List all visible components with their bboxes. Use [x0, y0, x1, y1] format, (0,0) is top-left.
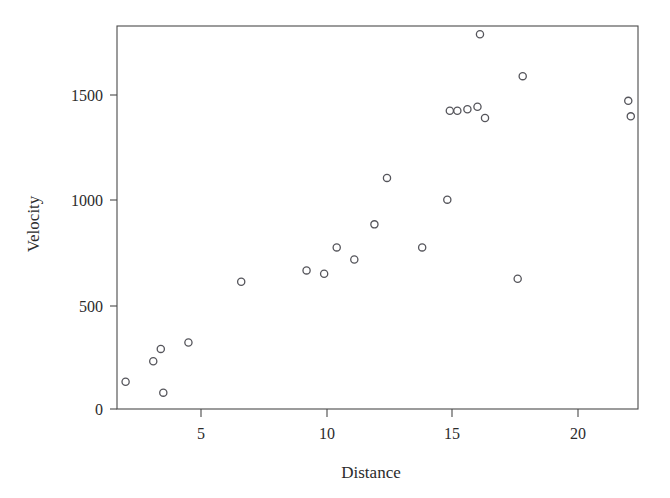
data-point: [446, 107, 453, 114]
data-point: [321, 270, 328, 277]
scatter-plot-figure: 1500 1000 500 0 5 10 15 20 Distance Velo…: [0, 0, 670, 498]
x-axis-tick-labels: 5 10 15 20: [197, 425, 586, 442]
data-point: [383, 174, 390, 181]
data-point: [454, 107, 461, 114]
data-point: [303, 267, 310, 274]
data-point: [625, 97, 632, 104]
data-point: [185, 339, 192, 346]
y-axis-title: Velocity: [24, 195, 43, 252]
data-point: [238, 278, 245, 285]
data-point: [474, 103, 481, 110]
y-tick-label-1500: 1500: [71, 87, 103, 104]
data-point: [160, 389, 167, 396]
data-points-layer: [122, 31, 634, 397]
x-axis-title: Distance: [341, 463, 400, 482]
x-tick-label-5: 5: [197, 425, 205, 442]
data-point: [514, 275, 521, 282]
x-axis-ticks: [201, 409, 578, 417]
data-point: [333, 244, 340, 251]
y-tick-label-1000: 1000: [71, 192, 103, 209]
y-tick-label-500: 500: [79, 298, 103, 315]
data-point: [371, 221, 378, 228]
data-point: [519, 73, 526, 80]
data-point: [122, 378, 129, 385]
y-axis-ticks: [110, 95, 117, 409]
data-point: [157, 345, 164, 352]
data-point: [419, 244, 426, 251]
y-axis-tick-labels: 1500 1000 500 0: [71, 87, 103, 418]
x-tick-label-20: 20: [570, 425, 586, 442]
x-tick-label-15: 15: [444, 425, 460, 442]
plot-frame: [117, 26, 638, 409]
data-point: [150, 358, 157, 365]
data-point: [351, 256, 358, 263]
data-point: [476, 31, 483, 38]
y-tick-label-0: 0: [95, 401, 103, 418]
data-point: [444, 196, 451, 203]
x-tick-label-10: 10: [319, 425, 335, 442]
data-point: [464, 106, 471, 113]
plot-canvas: 1500 1000 500 0 5 10 15 20 Distance Velo…: [0, 0, 670, 498]
data-point: [627, 113, 634, 120]
data-point: [481, 114, 488, 121]
